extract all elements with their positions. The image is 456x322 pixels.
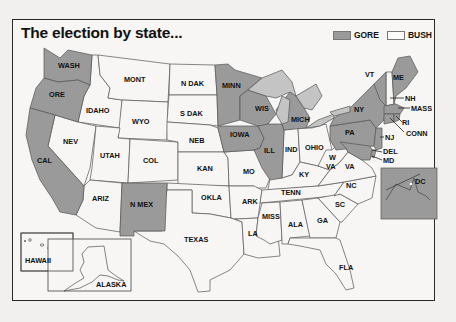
label-mont: MONT [124, 75, 146, 84]
label-ndak: N DAK [181, 79, 205, 88]
label-ohio: OHIO [305, 143, 324, 152]
label-utah: UTAH [100, 151, 120, 160]
label-nmex: N MEX [130, 200, 153, 209]
label-mass: MASS [411, 104, 432, 113]
label-nc: NC [346, 181, 357, 190]
label-ri: RI [402, 118, 409, 127]
label-ariz: ARIZ [92, 194, 110, 203]
dc-dot [410, 183, 413, 186]
label-nj: NJ [385, 133, 394, 142]
label-miss: MISS [262, 212, 280, 221]
state-mass[interactable] [384, 104, 404, 114]
state-ri[interactable] [394, 114, 400, 122]
label-cal: CAL [37, 156, 53, 165]
us-map: WASH ORE CAL IDAHO NEV MONT WYO UTAH COL… [0, 0, 456, 322]
label-texas: TEXAS [184, 235, 208, 244]
label-iowa: IOWA [230, 130, 250, 139]
label-idaho: IDAHO [86, 106, 110, 115]
label-fla: FLA [339, 263, 354, 272]
label-col: COL [143, 156, 159, 165]
dc-inset[interactable] [381, 168, 437, 219]
label-nh: NH [405, 94, 416, 103]
label-pa: PA [345, 128, 355, 137]
label-me: ME [393, 73, 404, 82]
label-ny: NY [354, 105, 364, 114]
label-mich: MICH [291, 115, 310, 124]
label-ala: ALA [288, 220, 304, 229]
label-neb: NEB [189, 136, 204, 145]
label-dc: DC [415, 177, 426, 186]
label-hawaii: HAWAII [25, 256, 51, 265]
label-sdak: S DAK [180, 109, 203, 118]
label-ky: KY [299, 170, 309, 179]
state-mississippi[interactable] [256, 202, 282, 244]
label-ga: GA [317, 216, 329, 225]
label-wva-1: W [329, 153, 336, 162]
label-wis: WIS [255, 104, 269, 113]
label-la: LA [248, 229, 258, 238]
label-okla: OKLA [201, 193, 222, 202]
label-del: DEL [383, 147, 398, 156]
label-conn: CONN [406, 129, 428, 138]
label-mo: MO [243, 167, 255, 176]
label-wash: WASH [58, 61, 80, 70]
label-sc: SC [335, 200, 346, 209]
label-va: VA [345, 162, 355, 171]
label-wva-2: VA [326, 162, 336, 171]
label-ill: ILL [264, 146, 275, 155]
state-nmexico[interactable] [120, 183, 167, 236]
label-tenn: TENN [281, 188, 301, 197]
label-ark: ARK [242, 197, 259, 206]
label-vt: VT [365, 70, 375, 79]
label-kan: KAN [197, 164, 213, 173]
label-minn: MINN [222, 81, 241, 90]
label-nev: NEV [63, 137, 78, 146]
label-ind: IND [285, 145, 298, 154]
lake-michigan [276, 96, 290, 124]
label-alaska: ALASKA [96, 280, 127, 289]
label-ore: ORE [49, 90, 65, 99]
state-conn[interactable] [384, 114, 394, 124]
label-md: MD [383, 156, 394, 165]
label-wyo: WYO [132, 117, 150, 126]
